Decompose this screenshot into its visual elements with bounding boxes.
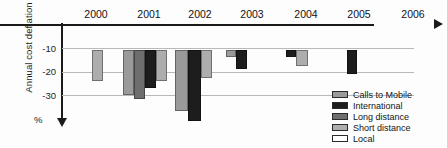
y-tick-label--10: -10: [26, 43, 56, 54]
legend-item-long-distance: Long distance: [332, 111, 412, 122]
bar-2002-short-distance: [201, 50, 212, 78]
chart-legend: Calls to MobileInternationalLong distanc…: [332, 89, 412, 144]
x-tick-label-2005: 2005: [337, 8, 381, 20]
chart-container: Annual cost deflation % -10-20-30 200020…: [0, 0, 447, 148]
legend-swatch-icon: [332, 102, 348, 109]
bar-2004-short-distance: [296, 50, 308, 66]
x-tick-label-2001: 2001: [127, 8, 171, 20]
legend-item-international: International: [332, 100, 412, 111]
bar-2004-international: [286, 50, 296, 57]
x-axis-arrow-icon: [434, 19, 443, 29]
legend-label: Calls to Mobile: [353, 90, 412, 100]
legend-swatch-icon: [332, 91, 348, 98]
legend-label: International: [353, 101, 403, 111]
legend-label: Long distance: [353, 112, 409, 122]
x-tick-label-2006: 2006: [391, 8, 435, 20]
bar-2000-short-distance: [92, 50, 103, 81]
legend-swatch-icon: [332, 124, 348, 131]
legend-label: Short distance: [353, 123, 411, 133]
bar-2001-calls-to-mobile: [123, 50, 134, 95]
bar-2001-long-distance: [134, 50, 145, 99]
legend-item-calls-to-mobile: Calls to Mobile: [332, 89, 412, 100]
bar-2002-international: [188, 50, 201, 121]
bar-2003-international: [236, 50, 247, 69]
bar-2001-short-distance: [156, 50, 167, 81]
bar-2005-international: [347, 50, 357, 74]
x-tick-label-2003: 2003: [230, 8, 274, 20]
legend-item-local: Local: [332, 133, 412, 144]
y-tick-label--20: -20: [26, 66, 56, 77]
legend-swatch-icon: [332, 113, 348, 120]
legend-label: Local: [353, 134, 375, 144]
x-tick-label-2000: 2000: [74, 8, 118, 20]
bar-2001-international: [145, 50, 156, 88]
gridline--10: [62, 48, 414, 49]
gridline--20: [62, 72, 414, 73]
bar-2003-calls-to-mobile: [226, 50, 236, 57]
legend-item-short-distance: Short distance: [332, 122, 412, 133]
x-tick-label-2002: 2002: [178, 8, 222, 20]
bar-2002-calls-to-mobile: [175, 50, 188, 111]
y-tick-label--30: -30: [26, 90, 56, 101]
x-tick-label-2004: 2004: [284, 8, 328, 20]
percent-unit-label: %: [34, 114, 42, 125]
legend-swatch-icon: [332, 135, 348, 142]
